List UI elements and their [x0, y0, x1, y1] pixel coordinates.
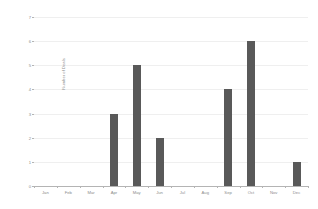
y-tick-label: 1 [15, 159, 31, 164]
bar[interactable] [110, 114, 118, 186]
bar-slot [217, 17, 240, 186]
bar-slot [240, 17, 263, 186]
x-tick-mark [148, 186, 149, 188]
y-tick-label: 6 [15, 39, 31, 44]
x-tick-mark [240, 186, 241, 188]
bar[interactable] [156, 138, 164, 186]
x-tick-label: Dec [282, 190, 312, 196]
bar-slot [285, 17, 308, 186]
y-tick-label: 4 [15, 87, 31, 92]
x-tick-mark [80, 186, 81, 188]
y-tick-label: 7 [15, 15, 31, 20]
bar[interactable] [224, 89, 232, 186]
y-tick-label: 5 [15, 63, 31, 68]
y-tick-label: 0 [15, 184, 31, 189]
x-tick-mark [285, 186, 286, 188]
x-tick-mark [171, 186, 172, 188]
x-tick-mark [217, 186, 218, 188]
bar-chart-figure: 01234567 Number of Deals JanFebMarAprMay… [0, 0, 318, 209]
y-axis-title: Number of Deals [59, 32, 69, 116]
y-tick-label: 3 [15, 111, 31, 116]
x-tick-mark [57, 186, 58, 188]
x-tick-mark [262, 186, 263, 188]
bar[interactable] [133, 65, 141, 186]
x-tick-mark [34, 186, 35, 188]
bar-slot [34, 17, 57, 186]
x-tick-mark [308, 186, 309, 188]
bar[interactable] [247, 41, 255, 186]
bar-slot [194, 17, 217, 186]
bar[interactable] [293, 162, 301, 186]
x-tick-mark [125, 186, 126, 188]
y-tick-label: 2 [15, 135, 31, 140]
bar-slot [80, 17, 103, 186]
x-tick-mark [103, 186, 104, 188]
bar-slot [103, 17, 126, 186]
plot-area: 01234567 Number of Deals [34, 17, 308, 186]
bar-slot [171, 17, 194, 186]
bar-slot [125, 17, 148, 186]
bar-slot [262, 17, 285, 186]
bar-slot [148, 17, 171, 186]
x-tick-mark [194, 186, 195, 188]
